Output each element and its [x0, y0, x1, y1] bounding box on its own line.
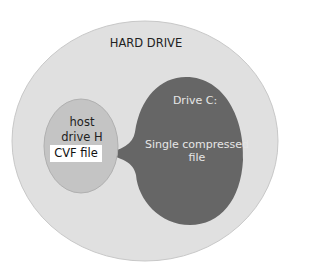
hard-drive-label: HARD DRIVE	[80, 37, 212, 50]
cvf-file-box: CVF file	[50, 145, 102, 162]
host-drive-label: host drive H	[50, 115, 114, 145]
compressed-file-label: Single compressed file	[138, 138, 256, 164]
drive-c-label: Drive C:	[150, 94, 240, 107]
host-label-line2: drive H	[50, 130, 114, 145]
host-label-line1: host	[50, 115, 114, 130]
